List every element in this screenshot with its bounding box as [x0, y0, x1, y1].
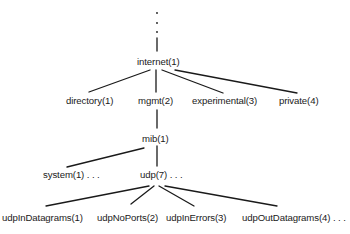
edge-internet-directory: [89, 70, 150, 92]
root-ellipsis-dots: [156, 12, 158, 33]
node-udpInDatagrams: udpInDatagrams(1): [2, 212, 83, 224]
node-udp: udp(7) . . .: [140, 169, 183, 181]
node-mib: mib(1): [142, 133, 169, 145]
tree-diagram: [0, 0, 350, 234]
node-udpInErrors: udpInErrors(3): [166, 212, 226, 224]
node-directory: directory(1): [66, 95, 113, 107]
edge-mib-system: [67, 148, 144, 167]
node-system: system(1) . . .: [43, 169, 100, 181]
edge-udp-udpOutDatagrams: [165, 186, 277, 206]
edge-udp-udpInErrors: [159, 186, 194, 206]
node-private: private(4): [279, 95, 319, 107]
node-experimental: experimental(3): [192, 95, 257, 107]
node-udpNoPorts: udpNoPorts(2): [97, 212, 158, 224]
node-mgmt: mgmt(2): [138, 95, 173, 107]
node-internet: internet(1): [137, 56, 180, 68]
edge-udp-udpInDatagrams: [46, 186, 149, 206]
node-udpOutDatagrams: udpOutDatagrams(4) . . .: [242, 212, 346, 224]
